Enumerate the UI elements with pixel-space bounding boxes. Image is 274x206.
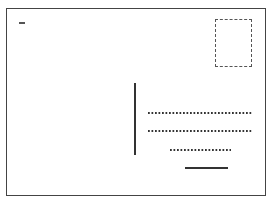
- address-line-4-solid: solid: [185, 167, 228, 169]
- stamp-placeholder-box: dashed rectangle: [215, 19, 252, 67]
- message-address-divider: vertical line: [134, 83, 136, 155]
- divider-label: vertical line: [134, 83, 135, 84]
- corner-dash-mark: [19, 22, 25, 24]
- stamp-area-label: dashed rectangle: [216, 20, 217, 21]
- address-line-1: dotted: [148, 112, 253, 114]
- address-line-2: dotted: [148, 130, 253, 132]
- address-line-3: dotted: [170, 149, 231, 151]
